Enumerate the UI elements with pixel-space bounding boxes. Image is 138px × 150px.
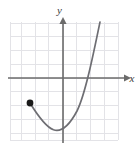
x-axis-label: x xyxy=(129,72,135,84)
grid-lines xyxy=(10,22,118,140)
coordinate-plane-svg: y x xyxy=(0,0,138,150)
parabola-curve xyxy=(30,22,100,130)
y-axis-arrow-icon xyxy=(59,17,66,24)
y-axis xyxy=(59,17,66,143)
y-axis-label: y xyxy=(56,4,62,16)
x-axis xyxy=(8,74,131,81)
left-endpoint-dot xyxy=(27,100,34,107)
graph-figure: y x xyxy=(0,0,138,150)
